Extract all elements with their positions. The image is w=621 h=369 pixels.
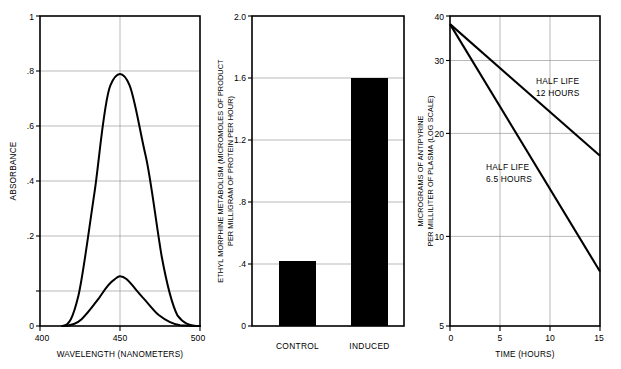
annotation-half-life-65-line2: 6.5 HOURS <box>486 174 532 184</box>
absorbance-x-axis-title: WAVELENGTH (NANOMETERS) <box>57 350 184 359</box>
absorbance-ytick-0: 0 <box>29 321 34 331</box>
category-label-induced: INDUCED <box>349 341 389 351</box>
absorbance-y-axis-title: ABSORBANCE <box>9 141 18 200</box>
annotation-half-life-65-line1: HALF LIFE <box>486 162 529 172</box>
metabolism-ytick-04: .4 <box>239 259 246 269</box>
absorbance-curve-induced <box>62 74 200 326</box>
metabolism-ytick-0: 0 <box>241 321 246 331</box>
antipyrine-x-axis-title: TIME (HOURS) <box>495 350 554 359</box>
figure-container: 1 .8 .6 .4 .2 0 400 450 500 WAVELENGTH (… <box>0 0 621 369</box>
annotation-half-life-65: HALF LIFE 6.5 HOURS <box>486 162 532 184</box>
antipyrine-xtick-15: 15 <box>594 333 604 343</box>
antipyrine-chart-svg: 40 30 20 10 5 HALF LIFE 12 HOURS HALF LI… <box>410 0 621 369</box>
antipyrine-ytick-30: 30 <box>434 56 444 66</box>
absorbance-chart-svg: 1 .8 .6 .4 .2 0 400 450 500 WAVELENGTH (… <box>0 0 210 369</box>
metabolism-y-axis-title-line1: ETHYL MORPHINE METABOLISM (MICROMOLES OF… <box>216 59 225 283</box>
metabolism-ytick-08: .8 <box>239 197 246 207</box>
panel-ethylmorphine-metabolism: 2.0 1.6 1.2 .8 .4 0 CONTROL INDUCED ETHY… <box>205 0 410 369</box>
metabolism-ytick-20: 2.0 <box>234 12 246 22</box>
absorbance-ytick-08: .8 <box>27 66 34 76</box>
absorbance-ytick-1: 1 <box>29 12 34 22</box>
absorbance-gridlines <box>40 16 200 326</box>
annotation-half-life-12-line2: 12 HOURS <box>536 88 580 98</box>
metabolism-ytick-16: 1.6 <box>234 73 246 83</box>
annotation-half-life-12-line1: HALF LIFE <box>536 76 579 86</box>
antipyrine-ytick-40: 40 <box>434 12 444 22</box>
antipyrine-y-axis-title-line1: MICROGRAMS OF ANTIPYRINE <box>416 115 425 226</box>
absorbance-xtick-450: 450 <box>113 333 128 343</box>
antipyrine-y-axis-title-line2: PER MILLILITER OF PLASMA (LOG SCALE) <box>426 95 435 246</box>
metabolism-chart-svg: 2.0 1.6 1.2 .8 .4 0 CONTROL INDUCED ETHY… <box>205 0 410 369</box>
absorbance-xtick-400: 400 <box>35 333 50 343</box>
category-label-control: CONTROL <box>276 341 319 351</box>
antipyrine-xtick-0: 0 <box>449 333 454 343</box>
absorbance-ytick-04: .4 <box>27 176 34 186</box>
antipyrine-xtick-5: 5 <box>498 333 503 343</box>
panel-antipyrine-decay: 40 30 20 10 5 HALF LIFE 12 HOURS HALF LI… <box>410 0 621 369</box>
panel-absorbance-spectrum: 1 .8 .6 .4 .2 0 400 450 500 WAVELENGTH (… <box>0 0 210 369</box>
antipyrine-xtick-10: 10 <box>545 333 555 343</box>
absorbance-ytick-02: .2 <box>27 231 34 241</box>
antipyrine-ytick-5: 5 <box>439 321 444 331</box>
metabolism-ytick-12: 1.2 <box>234 135 246 145</box>
metabolism-y-axis-title-line2: PER MILLIGRAM OF PROTEIN PER HOUR) <box>226 96 235 246</box>
decay-line-half-life-65 <box>450 24 600 271</box>
antipyrine-ytick-20: 20 <box>434 129 444 139</box>
absorbance-xtick-500: 500 <box>191 333 206 343</box>
absorbance-ytick-06: .6 <box>27 121 34 131</box>
annotation-half-life-12: HALF LIFE 12 HOURS <box>536 76 580 98</box>
antipyrine-ytick-10: 10 <box>434 232 444 242</box>
bar-induced <box>351 78 388 326</box>
bar-control <box>279 261 316 326</box>
